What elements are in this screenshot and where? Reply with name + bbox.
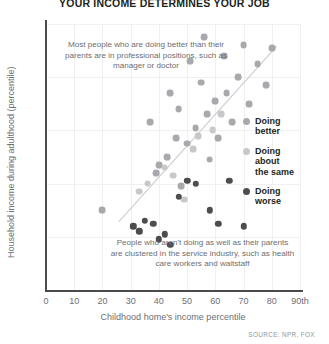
x-axis-line — [45, 290, 303, 292]
legend: Doing betterDoing about the sameDoing wo… — [243, 116, 329, 216]
scatter-point — [212, 98, 219, 105]
scatter-point — [198, 79, 205, 86]
scatter-point — [206, 207, 212, 213]
scatter-point — [192, 124, 199, 131]
scatter-point — [254, 60, 261, 67]
scatter-point — [192, 180, 198, 186]
x-tick-label: 60 — [210, 296, 220, 306]
scatter-point — [229, 119, 236, 126]
scatter-point — [189, 146, 196, 153]
scatter-point — [178, 183, 185, 190]
scatter-point — [164, 154, 171, 161]
legend-item[interactable]: Doing about the same — [243, 146, 329, 177]
legend-item-label: Doing about the same — [255, 146, 294, 177]
x-tick-label: 20 — [97, 296, 107, 306]
scatter-point — [161, 164, 168, 171]
y-axis-line — [45, 20, 47, 292]
scatter-point — [206, 156, 213, 163]
scatter-point — [144, 180, 151, 187]
scatter-point — [240, 42, 247, 49]
scatter-point — [240, 223, 246, 229]
gridline-horizontal — [46, 24, 300, 25]
scatter-point — [209, 127, 216, 134]
scatter-point — [246, 100, 253, 107]
scatter-point — [223, 90, 230, 97]
legend-item[interactable]: Doing better — [243, 116, 329, 137]
scatter-point — [218, 111, 225, 118]
annotation-bottom: People who aren't doing as well as their… — [110, 238, 295, 270]
scatter-point — [263, 82, 270, 89]
scatter-point — [147, 119, 154, 126]
x-axis-title: Childhood home's income percentile — [46, 312, 300, 322]
scatter-point — [181, 196, 188, 203]
x-tick-label: 50 — [182, 296, 192, 306]
y-axis-title: Household income during adulthood (perce… — [6, 66, 16, 258]
scatter-point — [150, 220, 156, 226]
x-tick-label: 90th — [291, 296, 309, 306]
scatter-point — [172, 135, 179, 142]
scatter-point — [235, 74, 242, 81]
x-tick-label: 10 — [69, 296, 79, 306]
chart-title: YOUR INCOME DETERMINES YOUR JOB — [0, 0, 329, 9]
scatter-point — [153, 170, 160, 177]
scatter-point — [268, 45, 275, 52]
gridline-horizontal — [46, 77, 300, 78]
x-tick-label: 0 — [43, 296, 48, 306]
x-tick-label: 70 — [239, 296, 249, 306]
scatter-point — [136, 188, 143, 195]
scatter-point — [142, 218, 148, 224]
x-tick-label: 40 — [154, 296, 164, 306]
x-tick-label: 80 — [267, 296, 277, 306]
scatter-point — [215, 135, 222, 142]
scatter-point — [170, 172, 177, 179]
x-tick-label: 30 — [126, 296, 136, 306]
legend-dot-icon — [243, 118, 250, 125]
scatter-point — [136, 228, 142, 234]
legend-dot-icon — [243, 188, 250, 195]
source-note: SOURCE: NPR, FOX — [248, 331, 315, 338]
scatter-point — [99, 207, 106, 214]
scatter-point — [195, 132, 202, 139]
scatter-point — [167, 90, 174, 97]
scatter-point — [175, 106, 182, 113]
legend-dot-icon — [243, 148, 250, 155]
scatter-point — [203, 111, 210, 118]
legend-item-label: Doing worse — [255, 186, 281, 207]
legend-item[interactable]: Doing worse — [243, 186, 329, 207]
annotation-top: Most people who are doing better than th… — [56, 40, 236, 72]
scatter-point — [215, 220, 221, 226]
legend-item-label: Doing better — [255, 116, 281, 137]
